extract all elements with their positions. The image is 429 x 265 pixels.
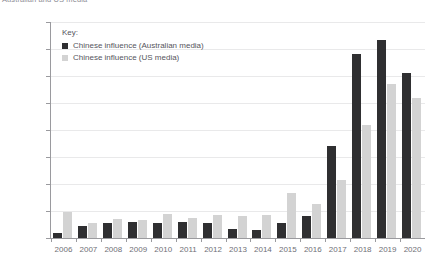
legend-label-0: Chinese influence (Australian media) xyxy=(73,41,204,50)
bar-2007-us[interactable] xyxy=(88,223,97,238)
bar-2010-us[interactable] xyxy=(163,214,172,238)
x-tick-mark-2020 xyxy=(400,239,401,242)
x-tick-mark-2015 xyxy=(275,239,276,242)
page-title: Australian and US media xyxy=(2,0,87,4)
x-tick-mark-2019 xyxy=(375,239,376,242)
bar-2017-au[interactable] xyxy=(327,146,336,238)
bar-group-2018 xyxy=(350,22,375,238)
x-tick-mark-2010 xyxy=(151,239,152,242)
bar-2014-us[interactable] xyxy=(262,215,271,238)
bar-2008-au[interactable] xyxy=(103,223,112,238)
bar-2013-us[interactable] xyxy=(238,216,247,238)
legend-items: Chinese influence (Australian media)Chin… xyxy=(62,41,204,62)
bar-group-2020 xyxy=(400,22,425,238)
x-tick-mark-2011 xyxy=(176,239,177,242)
chart-legend: Key: Chinese influence (Australian media… xyxy=(62,28,204,65)
bar-2017-us[interactable] xyxy=(337,180,346,238)
bar-2010-au[interactable] xyxy=(153,223,162,238)
bar-2020-au[interactable] xyxy=(402,73,411,238)
bar-2009-au[interactable] xyxy=(128,222,137,238)
y-tick-mark-500 xyxy=(46,103,50,104)
chart-page: Australian and US media Number of articl… xyxy=(0,0,429,265)
bar-2018-us[interactable] xyxy=(362,125,371,238)
x-tick-mark-2006 xyxy=(51,239,52,242)
bar-2015-us[interactable] xyxy=(287,193,296,238)
bar-2020-us[interactable] xyxy=(412,98,421,238)
bar-2012-au[interactable] xyxy=(203,223,212,238)
bar-2007-au[interactable] xyxy=(78,226,87,238)
bar-2008-us[interactable] xyxy=(113,219,122,238)
bar-2013-au[interactable] xyxy=(228,229,237,238)
legend-heading: Key: xyxy=(62,28,204,37)
legend-item-0[interactable]: Chinese influence (Australian media) xyxy=(62,41,204,50)
x-tick-mark-2008 xyxy=(101,239,102,242)
bar-2018-au[interactable] xyxy=(352,54,361,238)
legend-item-1[interactable]: Chinese influence (US media) xyxy=(62,53,204,62)
bar-2012-us[interactable] xyxy=(213,215,222,238)
y-tick-mark-0 xyxy=(46,238,50,239)
bar-group-2016 xyxy=(300,22,325,238)
x-axis-line xyxy=(51,238,425,239)
y-tick-mark-100 xyxy=(46,211,50,212)
x-tick-mark-2016 xyxy=(300,239,301,242)
y-tick-mark-200 xyxy=(46,184,50,185)
y-tick-mark-400 xyxy=(46,130,50,131)
x-tick-mark-2014 xyxy=(250,239,251,242)
x-tick-label-2020: 2020 xyxy=(397,245,429,254)
x-tick-mark-2009 xyxy=(126,239,127,242)
y-tick-mark-800 xyxy=(46,22,50,23)
bar-2016-us[interactable] xyxy=(312,204,321,238)
bar-2011-au[interactable] xyxy=(178,222,187,238)
bar-2006-us[interactable] xyxy=(63,212,72,238)
y-tick-mark-700 xyxy=(46,49,50,50)
x-tick-mark-2012 xyxy=(201,239,202,242)
legend-swatch-0 xyxy=(62,43,68,49)
bar-group-2015 xyxy=(275,22,300,238)
bar-2009-us[interactable] xyxy=(138,220,147,238)
bar-2015-au[interactable] xyxy=(277,223,286,238)
bar-group-2012 xyxy=(201,22,226,238)
bar-2014-au[interactable] xyxy=(252,230,261,238)
legend-swatch-1 xyxy=(62,55,68,61)
y-tick-mark-600 xyxy=(46,76,50,77)
bar-2016-au[interactable] xyxy=(302,216,311,238)
bar-2011-us[interactable] xyxy=(188,218,197,238)
x-tick-mark-2007 xyxy=(76,239,77,242)
bar-group-2014 xyxy=(250,22,275,238)
bar-2019-us[interactable] xyxy=(387,84,396,238)
bar-group-2013 xyxy=(226,22,251,238)
chart-title-cropped: Australian and US media xyxy=(0,0,429,9)
y-tick-mark-300 xyxy=(46,157,50,158)
x-tick-mark-2017 xyxy=(325,239,326,242)
bar-group-2017 xyxy=(325,22,350,238)
x-tick-mark-2018 xyxy=(350,239,351,242)
x-tick-mark-2013 xyxy=(226,239,227,242)
legend-label-1: Chinese influence (US media) xyxy=(73,53,179,62)
bar-group-2019 xyxy=(375,22,400,238)
bar-2019-au[interactable] xyxy=(377,40,386,238)
